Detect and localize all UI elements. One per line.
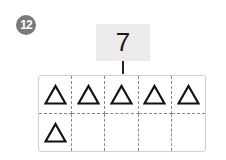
grid-cell (139, 76, 172, 114)
triangle-icon (77, 84, 100, 105)
grid-cell (172, 76, 205, 114)
grid-cell (105, 76, 138, 114)
grid-cell (72, 114, 105, 152)
triangle-icon (44, 122, 67, 143)
triangle-icon (177, 84, 200, 105)
grid-cell (105, 114, 138, 152)
triangle-icon (110, 84, 133, 105)
grid-cell (172, 114, 205, 152)
total-number-box: 7 (96, 24, 150, 61)
grid-cell (39, 114, 72, 152)
triangle-icon (44, 84, 67, 105)
grid-cell (72, 76, 105, 114)
triangle-icon (143, 84, 166, 105)
grid-cell (139, 114, 172, 152)
grid-cell (39, 76, 72, 114)
problem-number-badge: 12 (16, 15, 36, 35)
connector-line (122, 61, 124, 74)
ten-frame-grid (38, 75, 206, 152)
